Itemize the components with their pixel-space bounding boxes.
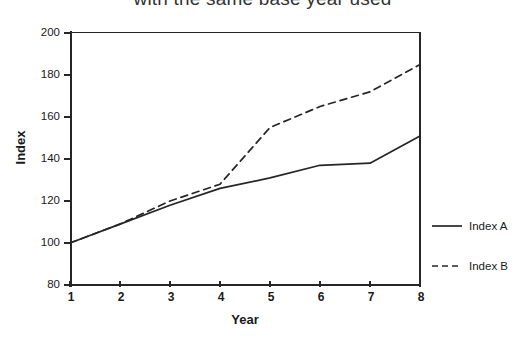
legend-item-index-a: Index A	[432, 206, 525, 246]
legend-label-index-a: Index A	[469, 220, 507, 232]
series-plot	[0, 0, 525, 340]
legend-item-index-b: Index B	[432, 246, 525, 286]
legend-swatch-dashed-icon	[432, 261, 462, 271]
y-axis-title: Index	[13, 113, 28, 183]
series-line-index-a	[70, 136, 420, 243]
legend-swatch-solid-icon	[432, 221, 462, 231]
series-line-index-b	[70, 65, 420, 244]
legend-label-index-b: Index B	[469, 260, 508, 272]
chart-legend: Index A Index B	[432, 206, 525, 286]
x-axis-title: Year	[0, 312, 490, 327]
line-chart-figure: with the same base year used 80100120140…	[0, 0, 525, 340]
